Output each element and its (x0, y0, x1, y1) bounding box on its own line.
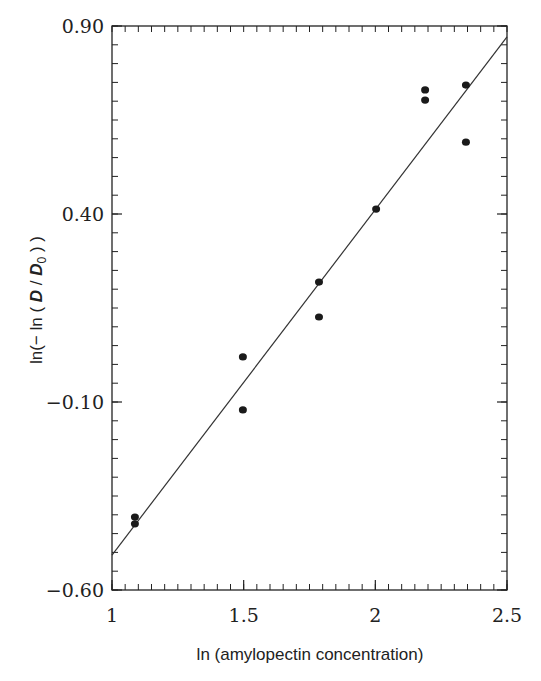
y-label-slash: / (27, 276, 46, 290)
data-point (239, 406, 247, 413)
data-point (372, 206, 380, 213)
scatter-chart: 11.522.5 0.900.40−0.10−0.60 ln (amylopec… (0, 0, 541, 681)
x-tick-label: 2.5 (492, 604, 522, 626)
data-point (421, 86, 429, 93)
y-label-prefix: ln(− ln ( (27, 302, 46, 364)
y-tick-label: −0.10 (46, 391, 104, 413)
data-point (462, 139, 470, 146)
data-point (131, 520, 139, 527)
y-label-D0: D (27, 263, 46, 275)
data-point (315, 313, 323, 320)
minor-ticks (112, 26, 507, 590)
data-point (421, 96, 429, 103)
x-tick-labels: 11.522.5 (106, 604, 522, 626)
data-point (239, 353, 247, 360)
fit-line (112, 37, 507, 555)
data-point (131, 513, 139, 520)
plot-frame (112, 26, 507, 590)
data-points (131, 81, 470, 527)
y-tick-label: −0.60 (46, 579, 104, 601)
major-ticks (112, 26, 507, 590)
y-tick-labels: 0.900.40−0.10−0.60 (46, 15, 104, 601)
data-point (315, 278, 323, 285)
y-tick-label: 0.90 (62, 15, 104, 37)
data-point (462, 81, 470, 88)
y-axis-label: ln(− ln ( D / D0 ) ) (27, 236, 49, 364)
y-label-suffix: ) ) (27, 236, 46, 257)
x-tick-label: 1.5 (229, 604, 259, 626)
x-tick-label: 2 (369, 604, 381, 626)
y-label-D: D (27, 290, 46, 302)
x-tick-label: 1 (106, 604, 118, 626)
y-tick-label: 0.40 (62, 203, 104, 225)
x-axis-label: ln (amylopectin concentration) (197, 645, 424, 664)
